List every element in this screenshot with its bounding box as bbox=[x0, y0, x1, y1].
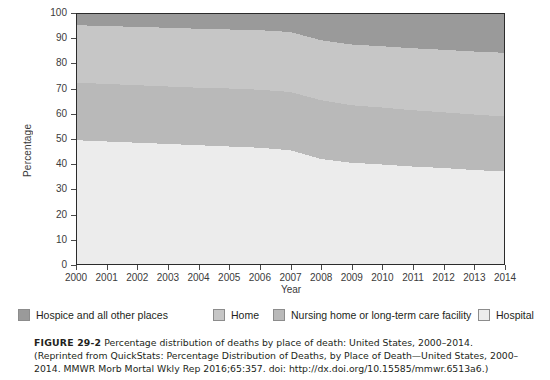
x-tick-label: 2000 bbox=[59, 273, 93, 283]
legend-item: Hospice and all other places bbox=[18, 306, 168, 324]
y-tick-label: 10 bbox=[27, 235, 67, 245]
legend-swatch-icon bbox=[213, 309, 225, 321]
x-tick-mark bbox=[291, 265, 292, 270]
x-tick-mark bbox=[107, 265, 108, 270]
x-tick-mark bbox=[474, 265, 475, 270]
y-tick-label: 40 bbox=[27, 159, 67, 169]
y-tick-label: 90 bbox=[27, 33, 67, 43]
x-tick-label: 2009 bbox=[335, 273, 369, 283]
x-tick-mark bbox=[137, 265, 138, 270]
x-tick-label: 2012 bbox=[427, 273, 461, 283]
x-tick-mark bbox=[321, 265, 322, 270]
plot-region bbox=[76, 13, 505, 265]
legend-label: Home bbox=[231, 309, 259, 321]
x-tick-label: 2007 bbox=[274, 273, 308, 283]
figure-number: FIGURE 29-2 bbox=[34, 337, 101, 348]
chart-area: Percentage 0102030405060708090100 200020… bbox=[0, 0, 550, 300]
x-tick-label: 2001 bbox=[90, 273, 124, 283]
stacked-area-series-group bbox=[77, 14, 504, 264]
figure-29-2: Percentage 0102030405060708090100 200020… bbox=[0, 0, 550, 380]
x-tick-label: 2013 bbox=[457, 273, 491, 283]
x-tick-mark bbox=[76, 265, 77, 270]
x-tick-label: 2014 bbox=[488, 273, 522, 283]
x-tick-label: 2008 bbox=[304, 273, 338, 283]
legend-swatch-icon bbox=[273, 309, 285, 321]
y-tick-label: 20 bbox=[27, 210, 67, 220]
legend-item: Nursing home or long-term care facility bbox=[273, 306, 471, 324]
legend-item: Hospital bbox=[478, 306, 534, 324]
x-tick-label: 2005 bbox=[212, 273, 246, 283]
x-tick-mark bbox=[168, 265, 169, 270]
legend-swatch-icon bbox=[478, 309, 490, 321]
y-tick-label: 80 bbox=[27, 58, 67, 68]
y-tick-label: 0 bbox=[27, 260, 67, 270]
y-tick-label: 50 bbox=[27, 134, 67, 144]
y-tick-label: 60 bbox=[27, 109, 67, 119]
x-axis-label: Year bbox=[76, 284, 506, 295]
x-tick-mark bbox=[505, 265, 506, 270]
legend-label: Hospice and all other places bbox=[36, 309, 168, 321]
y-tick-label: 100 bbox=[27, 8, 67, 18]
x-tick-label: 2006 bbox=[243, 273, 277, 283]
y-tick-label: 30 bbox=[27, 184, 67, 194]
x-tick-mark bbox=[413, 265, 414, 270]
x-tick-mark bbox=[382, 265, 383, 270]
x-tick-label: 2003 bbox=[151, 273, 185, 283]
legend-swatch-icon bbox=[18, 309, 30, 321]
chart-legend: Hospice and all other placesHomeNursing … bbox=[0, 306, 550, 328]
x-tick-mark bbox=[444, 265, 445, 270]
y-tick-label: 70 bbox=[27, 84, 67, 94]
x-tick-label: 2002 bbox=[120, 273, 154, 283]
legend-label: Nursing home or long-term care facility bbox=[291, 309, 471, 321]
x-tick-mark bbox=[199, 265, 200, 270]
figure-caption: FIGURE 29-2 Percentage distribution of d… bbox=[34, 336, 520, 376]
legend-item: Home bbox=[213, 306, 259, 324]
legend-label: Hospital bbox=[496, 309, 534, 321]
figure-caption-text: Percentage distribution of deaths by pla… bbox=[34, 337, 518, 374]
x-tick-mark bbox=[352, 265, 353, 270]
x-tick-mark bbox=[260, 265, 261, 270]
x-tick-label: 2004 bbox=[182, 273, 216, 283]
x-tick-label: 2010 bbox=[365, 273, 399, 283]
x-tick-label: 2011 bbox=[396, 273, 430, 283]
x-tick-mark bbox=[229, 265, 230, 270]
